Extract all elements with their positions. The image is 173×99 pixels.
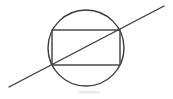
geometry-figure-canvas: [0, 0, 173, 99]
scan-artifact-smudge: [78, 91, 100, 94]
geometry-figure-svg: [0, 0, 173, 99]
circle-shape: [48, 10, 124, 86]
extended-diagonal-line: [9, 6, 164, 87]
